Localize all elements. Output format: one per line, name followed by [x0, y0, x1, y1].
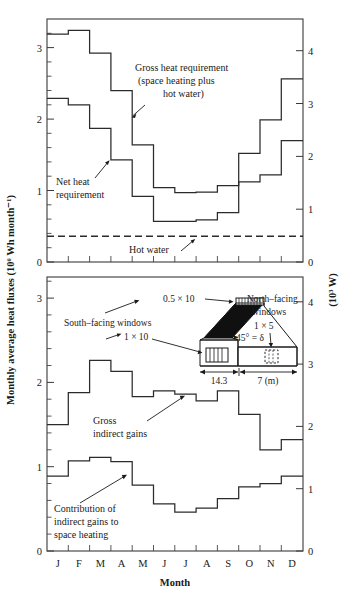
bottom-right-tick-4: 4	[308, 297, 314, 308]
top-right-tick-0: 0	[308, 257, 313, 268]
bottom-left-tick-1: 1	[37, 462, 42, 473]
annotation-net-heat-line1: Net heat	[56, 176, 90, 187]
annotation-gross-indirect-line2: indirect gains	[93, 428, 147, 439]
series-net-heat-requirement	[47, 98, 303, 221]
top-panel-left-ticks	[47, 33, 54, 262]
bottom-left-tick-2: 2	[37, 377, 42, 388]
figure-container: Monthly average heat fluxes (10⁶ Wh mont…	[0, 0, 344, 597]
month-label-jan: J	[56, 558, 60, 569]
annotation-hot-water: Hot water	[129, 244, 169, 255]
x-axis-title: Month	[160, 577, 190, 588]
leader-net-heat	[95, 160, 110, 178]
leader-north-windows	[269, 333, 273, 347]
inset-angle-label: 45° = δ	[236, 333, 264, 343]
bottom-right-tick-3: 3	[308, 359, 313, 370]
annotation-net-heat-line2: requirement	[56, 189, 105, 200]
month-label-mar: M	[96, 558, 106, 569]
bottom-right-tick-2: 2	[308, 421, 313, 432]
month-label-dec: D	[288, 558, 296, 569]
top-left-tick-3: 3	[37, 43, 42, 54]
inset-dimension-line	[200, 368, 297, 376]
top-left-tick-0: 0	[37, 257, 42, 268]
inset-north-windows-size: 1 × 5	[254, 321, 274, 331]
inset-dim-right: 7 (m)	[258, 376, 279, 387]
x-axis-month-labels: J F M A M J J A S O N D	[56, 558, 297, 569]
month-label-jul: J	[183, 558, 187, 569]
y-axis-right-title: (10³ W)	[327, 273, 339, 307]
month-label-aug: A	[203, 558, 211, 569]
month-label-feb: F	[76, 558, 82, 569]
bottom-panel-left-ticks	[47, 281, 54, 551]
bottom-panel-right-ticks	[296, 302, 303, 551]
top-panel-bottom-ticks	[68, 256, 281, 262]
annotation-contribution-line3: space heating	[54, 529, 108, 540]
month-label-oct: O	[246, 558, 254, 569]
annotation-gross-heat-line1: Gross heat requirement	[135, 62, 229, 73]
bottom-left-tick-0: 0	[37, 546, 42, 557]
month-label-nov: N	[267, 558, 275, 569]
bottom-panel: 0 1 2 3 0 1 2 3 4	[37, 277, 314, 557]
bottom-left-tick-3: 3	[37, 293, 42, 304]
series-gross-indirect-gains	[47, 360, 303, 449]
annotation-gross-heat-line3: hot water)	[163, 88, 204, 100]
inset-south-windows-size: 1 × 10	[124, 332, 149, 342]
y-axis-left-title: Monthly average heat fluxes (10⁶ Wh mont…	[5, 195, 17, 405]
inset-roof-glazing-label: 0.5 × 10	[163, 294, 195, 304]
top-panel-frame	[47, 19, 303, 262]
leader-south-window-size	[152, 339, 202, 354]
inset-building-diagram: 45° = δ 0.5 × 10 South–facing windows 1 …	[64, 294, 298, 387]
series-gross-heat-requirement	[47, 30, 303, 192]
top-right-tick-2: 2	[308, 151, 313, 162]
top-left-tick-2: 2	[37, 114, 42, 125]
bottom-right-tick-1: 1	[308, 484, 313, 495]
annotation-gross-indirect-line1: Gross	[93, 415, 116, 426]
leader-south-windows-upper	[105, 300, 139, 313]
heat-flux-figure: Monthly average heat fluxes (10⁶ Wh mont…	[0, 0, 344, 597]
month-label-may: M	[138, 558, 148, 569]
annotation-gross-heat-line2: (space heating plus	[138, 75, 215, 87]
inset-north-windows-title-2: windows	[252, 307, 287, 317]
leader-gross-heat	[132, 105, 145, 118]
top-left-tick-1: 1	[37, 186, 42, 197]
leader-south-windows-lower	[106, 333, 121, 339]
inset-north-windows-title-1: North–facing	[247, 294, 298, 304]
inset-dim-left: 14.3	[211, 376, 228, 386]
leader-contribution	[80, 475, 127, 503]
annotation-contribution-line2: indirect gains to	[54, 516, 118, 527]
month-label-apr: A	[118, 558, 126, 569]
top-right-tick-4: 4	[308, 46, 314, 57]
top-panel: 0 1 2 3 0 1 2 3 4	[37, 19, 314, 268]
annotation-contribution-line1: Contribution of	[54, 503, 117, 514]
top-right-tick-3: 3	[308, 99, 313, 110]
top-panel-right-ticks	[296, 51, 303, 262]
leader-hot-water	[181, 239, 195, 251]
leader-gross-indirect	[147, 396, 185, 421]
bottom-panel-bottom-ticks	[68, 545, 281, 551]
top-right-tick-1: 1	[308, 204, 313, 215]
bottom-right-tick-0: 0	[308, 546, 313, 557]
month-label-jun: J	[162, 558, 166, 569]
inset-south-windows-title: South–facing windows	[64, 318, 152, 328]
month-label-sep: S	[225, 558, 231, 569]
